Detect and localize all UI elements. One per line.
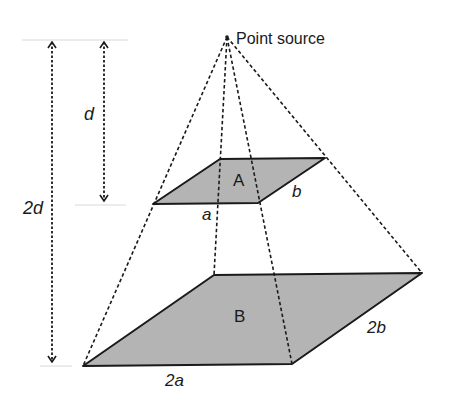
edge-b-label: b bbox=[292, 182, 301, 201]
edge-2a-label: 2a bbox=[164, 371, 184, 390]
surface-B-label: B bbox=[234, 307, 245, 326]
distance-2d-label: 2d bbox=[22, 198, 44, 218]
distance-d-label: d bbox=[84, 104, 95, 124]
surface-A-label: A bbox=[233, 171, 245, 190]
edge-a-label: a bbox=[202, 205, 211, 224]
point-source-label: Point source bbox=[236, 30, 325, 47]
inverse-square-law-diagram: Point source d 2d A a b B 2a 2b bbox=[0, 0, 449, 404]
point-source-marker bbox=[225, 35, 229, 39]
ray-back-left bbox=[214, 37, 227, 275]
ray-back-right bbox=[227, 37, 422, 273]
edge-2b-label: 2b bbox=[366, 318, 386, 337]
